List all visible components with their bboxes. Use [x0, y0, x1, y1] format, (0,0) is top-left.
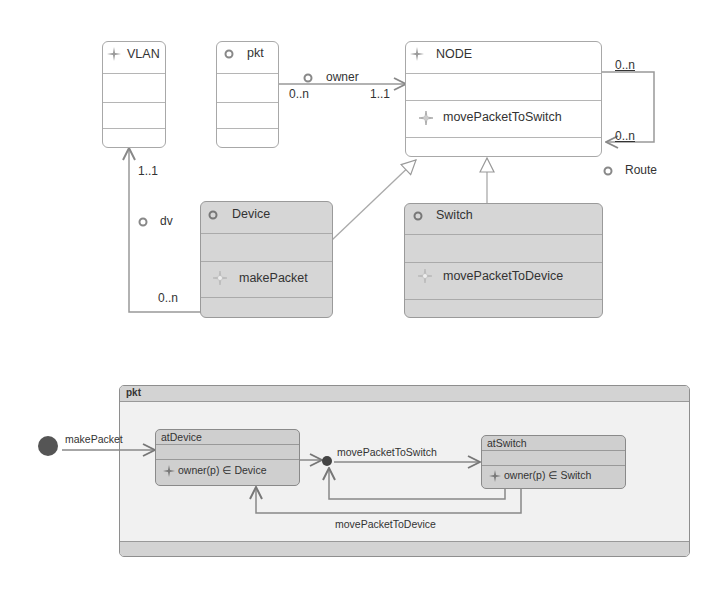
initial-transition-label: makePacket	[65, 433, 123, 445]
state-name: atSwitch	[482, 436, 625, 451]
state-transitions	[0, 0, 728, 599]
junction-node	[322, 456, 332, 466]
initial-node	[38, 436, 58, 456]
state-at-device[interactable]: atDevice owner(p) ∈ Device	[155, 429, 300, 486]
state-invariant: owner(p) ∈ Device	[156, 460, 299, 485]
state-at-switch[interactable]: atSwitch owner(p) ∈ Switch	[481, 435, 626, 489]
state-name: atDevice	[156, 430, 299, 445]
transition-label-to-switch: movePacketToSwitch	[337, 446, 437, 458]
state-invariant: owner(p) ∈ Switch	[482, 466, 625, 488]
transition-label-to-device: movePacketToDevice	[335, 518, 436, 530]
